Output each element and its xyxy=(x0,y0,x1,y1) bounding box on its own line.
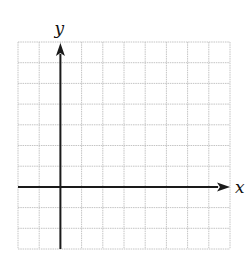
coordinate-plane: x y xyxy=(0,0,249,261)
grid-lines xyxy=(18,42,230,249)
x-axis-label: x xyxy=(235,177,245,197)
y-axis-label: y xyxy=(53,18,64,38)
